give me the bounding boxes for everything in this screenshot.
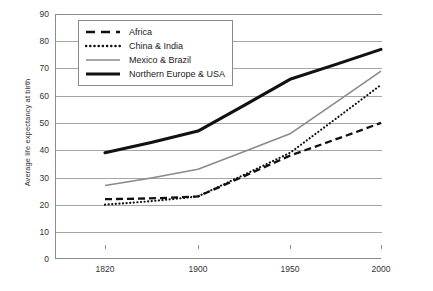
legend-label-northern-europe-usa: Northern Europe & USA: [129, 68, 225, 80]
legend-item-mexico-brazil: Mexico & Brazil: [85, 53, 225, 67]
legend-item-africa: Africa: [85, 25, 225, 39]
legend-item-northern-europe-usa: Northern Europe & USA: [85, 67, 225, 81]
legend-swatch-dotted-icon: [85, 40, 121, 52]
legend-swatch-dashed-icon: [85, 26, 121, 38]
series-line-africa: [105, 123, 381, 199]
legend-label-mexico-brazil: Mexico & Brazil: [129, 54, 191, 66]
series-line-mexico-brazil: [105, 71, 381, 185]
legend-swatch-thin-gray-icon: [85, 54, 121, 66]
legend-label-china-india: China & India: [129, 40, 183, 52]
chart-legend: Africa China & India Mexico & Brazil Nor…: [78, 20, 233, 86]
legend-label-africa: Africa: [129, 26, 152, 38]
legend-item-china-india: China & India: [85, 39, 225, 53]
legend-swatch-thick-black-icon: [85, 68, 121, 80]
life-expectancy-chart: Average life expectancy at birth 90 80 7…: [0, 0, 433, 291]
